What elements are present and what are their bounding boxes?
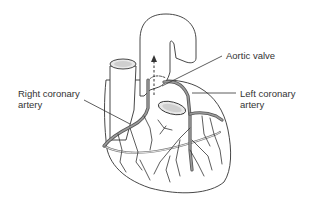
label-left-coronary-line1: Left coronary [240, 88, 295, 99]
label-right-coronary-artery: Right coronary artery [18, 88, 80, 110]
label-right-coronary-line1: Right coronary [18, 88, 80, 99]
label-right-coronary-line2: artery [18, 99, 80, 110]
label-left-coronary-line2: artery [240, 99, 295, 110]
label-left-coronary-artery: Left coronary artery [240, 88, 295, 110]
label-aortic-valve: Aortic valve [226, 50, 275, 61]
